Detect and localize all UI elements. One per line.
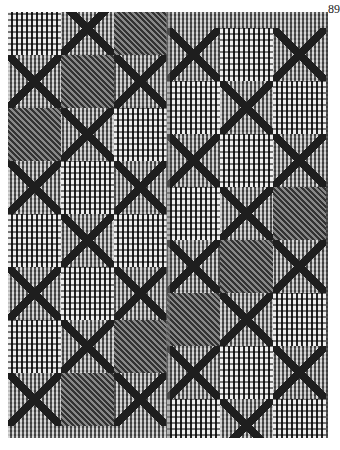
- weave-motif: [167, 346, 220, 399]
- weave-motif: [220, 134, 273, 187]
- weave-motif: [8, 161, 61, 214]
- weave-motif: [220, 293, 273, 346]
- weave-motif: [273, 399, 326, 438]
- weave-motif: [273, 187, 326, 240]
- weave-motif: [167, 399, 220, 438]
- weave-motif: [220, 28, 273, 81]
- weave-motif: [167, 134, 220, 187]
- weave-motif: [61, 320, 114, 373]
- coverlet-photograph: [8, 12, 328, 438]
- weave-motif: [61, 214, 114, 267]
- weave-motif: [220, 240, 273, 293]
- weave-motif: [8, 214, 61, 267]
- weave-motif: [167, 240, 220, 293]
- weave-motif: [114, 267, 167, 320]
- weave-motif: [167, 81, 220, 134]
- weave-motif: [61, 161, 114, 214]
- weave-motif: [8, 108, 61, 161]
- weave-motif: [114, 12, 167, 55]
- weave-motif: [61, 12, 114, 55]
- page-number: 89: [328, 2, 340, 17]
- weave-motif: [167, 293, 220, 346]
- weave-motif: [273, 134, 326, 187]
- weave-motif: [114, 55, 167, 108]
- weave-motif: [220, 187, 273, 240]
- weave-motif: [61, 373, 114, 426]
- weave-motif: [220, 81, 273, 134]
- weave-motif: [114, 108, 167, 161]
- weave-motif: [114, 161, 167, 214]
- weave-motif: [114, 373, 167, 426]
- weave-motif: [273, 293, 326, 346]
- center-seam: [166, 12, 170, 438]
- weave-motif: [61, 108, 114, 161]
- weave-motif: [8, 12, 61, 55]
- weave-motif: [61, 267, 114, 320]
- weave-motif: [167, 187, 220, 240]
- weave-motif: [167, 28, 220, 81]
- weave-motif: [61, 55, 114, 108]
- weave-motif: [273, 28, 326, 81]
- weave-motif: [273, 346, 326, 399]
- weave-motif: [8, 55, 61, 108]
- weave-motif: [220, 399, 273, 438]
- weave-motif: [114, 320, 167, 373]
- weave-motif: [273, 81, 326, 134]
- weave-motif: [8, 320, 61, 373]
- weave-motif: [220, 346, 273, 399]
- weave-motif: [8, 373, 61, 426]
- weave-motif: [8, 267, 61, 320]
- weave-motif: [273, 240, 326, 293]
- weave-motif: [114, 214, 167, 267]
